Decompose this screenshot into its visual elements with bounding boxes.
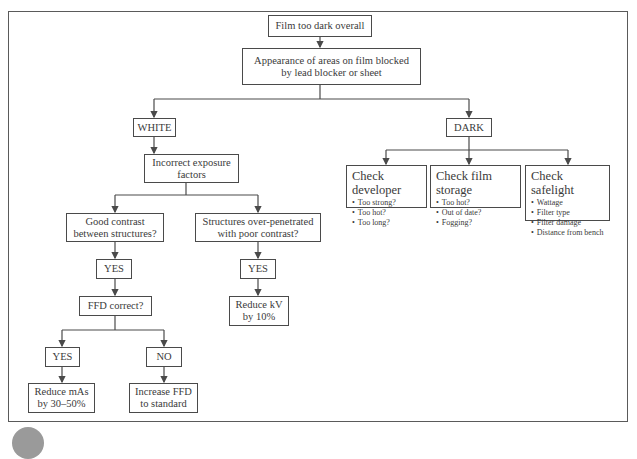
node-title: Check developer bbox=[352, 169, 421, 197]
bullet-item: Distance from bench bbox=[531, 228, 603, 238]
node-label-line1: Increase FFD bbox=[135, 386, 192, 398]
node-check-safelight: Check safelight Wattage Filter type Filt… bbox=[525, 165, 610, 221]
node-yes-over-penetrated: YES bbox=[240, 259, 276, 279]
node-label-line2: to standard bbox=[140, 398, 186, 410]
node-yes-label: YES bbox=[104, 263, 124, 275]
bullet-item: Wattage bbox=[531, 198, 603, 208]
node-yes-label: YES bbox=[53, 351, 73, 363]
node-over-penetrated: Structures over-penetrated with poor con… bbox=[195, 213, 321, 242]
bullet-list: Wattage Filter type Filter damage Distan… bbox=[531, 198, 603, 238]
node-label-line2: factors bbox=[177, 169, 206, 181]
node-label-line1: Incorrect exposure bbox=[152, 157, 230, 169]
node-dark: DARK bbox=[446, 118, 492, 137]
node-ffd-correct: FFD correct? bbox=[79, 296, 152, 316]
node-title: Check film storage bbox=[436, 169, 515, 197]
node-dark-label: DARK bbox=[454, 122, 484, 134]
node-reduce-mas: Reduce mAs by 30–50% bbox=[28, 383, 95, 413]
node-incorrect-exposure: Incorrect exposure factors bbox=[144, 154, 239, 183]
node-label-line2: with poor contrast? bbox=[217, 228, 298, 240]
node-label-line1: Appearance of areas on film blocked bbox=[254, 55, 409, 67]
node-yes-ffd: YES bbox=[45, 347, 80, 367]
bullet-item: Filter damage bbox=[531, 218, 603, 228]
bullet-item: Too hot? bbox=[436, 198, 481, 208]
node-blocked-areas-question: Appearance of areas on film blocked by l… bbox=[242, 48, 421, 85]
bullet-item: Too hot? bbox=[352, 208, 396, 218]
node-label-line1: Good contrast bbox=[85, 216, 144, 228]
node-yes-good-contrast: YES bbox=[96, 259, 132, 279]
node-label-line1: Reduce mAs bbox=[35, 386, 89, 398]
node-label-line1: Reduce kV bbox=[236, 299, 283, 311]
node-title: Check safelight bbox=[531, 169, 604, 197]
node-label-line2: by 10% bbox=[243, 311, 275, 323]
node-check-film-storage: Check film storage Too hot? Out of date?… bbox=[430, 165, 521, 208]
node-no-label: NO bbox=[156, 351, 171, 363]
bullet-list: Too hot? Out of date? Fogging? bbox=[436, 198, 481, 228]
node-label-line2: by lead blocker or sheet bbox=[281, 67, 381, 79]
node-root: Film too dark overall bbox=[268, 15, 372, 37]
bullet-item: Too long? bbox=[352, 218, 396, 228]
bullet-item: Filter type bbox=[531, 208, 603, 218]
node-reduce-kv: Reduce kV by 10% bbox=[229, 296, 289, 326]
node-label-line2: by 30–50% bbox=[37, 398, 85, 410]
node-increase-ffd: Increase FFD to standard bbox=[129, 383, 198, 413]
bullet-list: Too strong? Too hot? Too long? bbox=[352, 198, 396, 228]
node-root-label: Film too dark overall bbox=[276, 20, 365, 32]
node-white-label: WHITE bbox=[138, 122, 172, 134]
node-ffd-label: FFD correct? bbox=[88, 300, 144, 312]
node-good-contrast: Good contrast between structures? bbox=[66, 213, 164, 242]
node-yes-label: YES bbox=[248, 263, 268, 275]
bullet-item: Too strong? bbox=[352, 198, 396, 208]
node-label-line1: Structures over-penetrated bbox=[203, 216, 314, 228]
bullet-item: Out of date? bbox=[436, 208, 481, 218]
node-no-ffd: NO bbox=[146, 347, 182, 367]
node-white: WHITE bbox=[133, 118, 176, 137]
bullet-item: Fogging? bbox=[436, 218, 481, 228]
node-check-developer: Check developer Too strong? Too hot? Too… bbox=[346, 165, 427, 208]
node-label-line2: between structures? bbox=[73, 228, 156, 240]
decorative-circle bbox=[12, 427, 44, 459]
